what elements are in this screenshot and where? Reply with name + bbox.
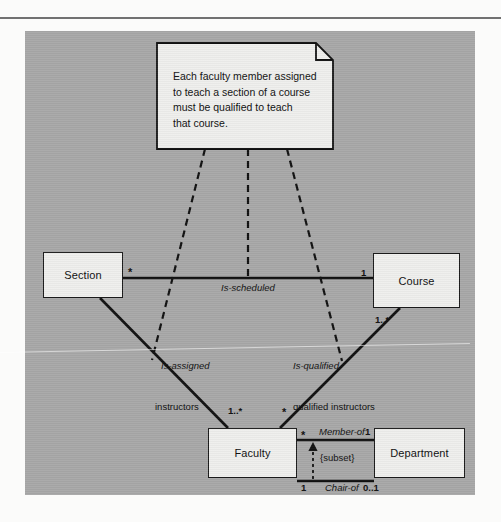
page-header-rule bbox=[0, 17, 501, 19]
class-name-faculty: Faculty bbox=[234, 447, 270, 459]
multiplicity-is-scheduled-section: * bbox=[128, 269, 132, 276]
class-name-department: Department bbox=[390, 447, 448, 459]
class-box-section[interactable]: Section bbox=[43, 252, 123, 298]
multiplicity-is-qualified-faculty: * bbox=[282, 409, 286, 416]
role-name-instructors: instructors bbox=[155, 402, 199, 412]
class-box-faculty[interactable]: Faculty bbox=[208, 428, 297, 478]
class-name-section: Section bbox=[64, 269, 101, 281]
role-name-qualified-instructors: qualified instructors bbox=[293, 402, 375, 412]
multiplicity-is-qualified-course: 1..* bbox=[375, 315, 389, 325]
multiplicity-chair-of-department: 0..1 bbox=[363, 483, 379, 493]
association-label-chair-of: Chair-of bbox=[325, 483, 359, 493]
multiplicity-is-scheduled-course: 1 bbox=[361, 268, 366, 278]
constraint-note: Each faculty member assigned to teach a … bbox=[157, 43, 333, 149]
association-label-is-assigned: Is-assigned bbox=[161, 361, 210, 371]
multiplicity-is-assigned-faculty: 1..* bbox=[228, 406, 242, 416]
class-box-department[interactable]: Department bbox=[374, 428, 465, 478]
class-name-course: Course bbox=[398, 275, 434, 287]
constraint-note-text: Each faculty member assigned to teach a … bbox=[173, 69, 325, 131]
association-label-member-of: Member-of bbox=[319, 427, 365, 437]
association-label-is-qualified: Is-qualified bbox=[293, 361, 339, 371]
class-box-course[interactable]: Course bbox=[373, 253, 460, 308]
uml-class-diagram-panel: Each faculty member assigned to teach a … bbox=[25, 31, 475, 495]
constraint-subset-label: {subset} bbox=[320, 453, 354, 463]
scanned-page: Each faculty member assigned to teach a … bbox=[0, 0, 501, 522]
multiplicity-member-of-faculty: * bbox=[301, 432, 305, 439]
multiplicity-chair-of-faculty: 1 bbox=[301, 483, 306, 493]
association-label-is-scheduled: Is-scheduled bbox=[221, 283, 275, 293]
page-header-ghost-text bbox=[8, 1, 428, 15]
multiplicity-member-of-department: 1 bbox=[365, 427, 370, 437]
